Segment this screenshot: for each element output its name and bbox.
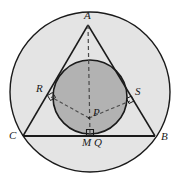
point-label-s: S [135, 86, 141, 97]
point-label-b: B [161, 131, 168, 142]
point-label-q: Q [94, 137, 102, 148]
geometry-figure: A B C P Q M R S [0, 0, 175, 183]
geometry-canvas [0, 0, 175, 183]
point-label-r: R [36, 83, 43, 94]
point-label-p: P [93, 107, 100, 118]
point-label-m: M [82, 137, 91, 148]
point-label-a: A [84, 10, 91, 21]
point-label-c: C [9, 130, 16, 141]
point-p-dot [88, 117, 90, 119]
